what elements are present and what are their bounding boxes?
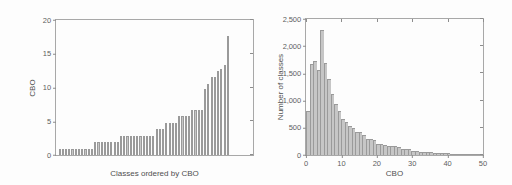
bar bbox=[101, 142, 103, 155]
right-y-tick-mirror bbox=[480, 45, 483, 46]
bar bbox=[165, 123, 167, 155]
bar bbox=[146, 136, 148, 155]
bar bbox=[188, 116, 190, 155]
bar bbox=[136, 136, 138, 155]
y-axis-title-left: CBO bbox=[28, 79, 37, 96]
bar bbox=[59, 149, 61, 155]
bar bbox=[175, 123, 177, 155]
bar bbox=[191, 110, 193, 155]
bar bbox=[224, 65, 226, 155]
bar bbox=[81, 149, 83, 155]
histogram-series-right bbox=[306, 19, 483, 155]
right-y-tick-label: 500 bbox=[289, 124, 306, 132]
left-y-tick-mirror bbox=[250, 53, 253, 54]
bar bbox=[110, 142, 112, 155]
left-y-tick-mirror bbox=[250, 154, 253, 155]
bar bbox=[227, 36, 229, 155]
bar bbox=[194, 110, 196, 155]
bar bbox=[201, 110, 203, 155]
bar bbox=[207, 84, 209, 155]
left-y-tick-label: 20 bbox=[43, 16, 56, 24]
bar bbox=[152, 136, 154, 155]
right-x-tick-label: 0 bbox=[304, 155, 308, 168]
right-x-tick-label: 10 bbox=[337, 155, 345, 168]
bar bbox=[120, 136, 122, 155]
chart-panel-right: CBO Number of classes 05001,0001,5002,00… bbox=[256, 0, 512, 185]
bar bbox=[62, 149, 64, 155]
bar bbox=[88, 149, 90, 155]
bar bbox=[107, 142, 109, 155]
bar bbox=[75, 149, 77, 155]
bar bbox=[97, 142, 99, 155]
bar bbox=[126, 136, 128, 155]
right-x-tick-mirror bbox=[341, 19, 342, 22]
right-y-tick-mirror bbox=[480, 127, 483, 128]
bar bbox=[220, 69, 222, 155]
left-y-tick-label: 10 bbox=[43, 84, 56, 92]
left-y-tick-label: 5 bbox=[47, 118, 56, 126]
right-x-tick-mirror bbox=[377, 19, 378, 22]
right-x-tick-mirror bbox=[412, 19, 413, 22]
plot-area-right: CBO Number of classes 05001,0001,5002,00… bbox=[305, 18, 484, 156]
bar bbox=[162, 129, 164, 155]
x-axis-title-right: CBO bbox=[386, 169, 403, 178]
left-y-tick-label: 0 bbox=[47, 151, 56, 159]
bar bbox=[123, 136, 125, 155]
bar bbox=[68, 149, 70, 155]
right-y-tick-label: 1,500 bbox=[283, 70, 306, 78]
bar bbox=[198, 110, 200, 155]
bar bbox=[91, 149, 93, 155]
bar bbox=[78, 149, 80, 155]
bar bbox=[185, 116, 187, 155]
bar bbox=[71, 149, 73, 155]
right-x-tick-label: 40 bbox=[443, 155, 451, 168]
right-x-tick-label: 30 bbox=[408, 155, 416, 168]
bar bbox=[217, 71, 219, 155]
x-axis-title-left: Classes ordered by CBO bbox=[110, 169, 198, 178]
bar bbox=[143, 136, 145, 155]
bar bbox=[181, 116, 183, 155]
bar bbox=[114, 142, 116, 155]
bar bbox=[94, 142, 96, 155]
chart-panel-left: Classes ordered by CBO CBO 05101520 bbox=[0, 0, 256, 185]
plot-area-left: Classes ordered by CBO CBO 05101520 bbox=[55, 19, 254, 156]
y-axis-title-right: Number of classes bbox=[276, 54, 285, 120]
bar bbox=[159, 129, 161, 155]
bar bbox=[139, 136, 141, 155]
bar bbox=[172, 123, 174, 155]
right-x-tick-label: 50 bbox=[479, 155, 487, 168]
right-x-tick-mirror bbox=[448, 19, 449, 22]
bar bbox=[156, 129, 158, 155]
right-y-tick-mirror bbox=[480, 72, 483, 73]
right-y-tick-label: 2,500 bbox=[283, 15, 306, 23]
bar bbox=[84, 149, 86, 155]
bar bbox=[104, 142, 106, 155]
bar-series-left bbox=[56, 20, 253, 155]
right-x-tick-label: 20 bbox=[373, 155, 381, 168]
bar bbox=[214, 77, 216, 155]
bar bbox=[130, 136, 132, 155]
right-y-tick-mirror bbox=[480, 100, 483, 101]
right-y-tick-label: 2,000 bbox=[283, 42, 306, 50]
left-y-tick-mirror bbox=[250, 120, 253, 121]
bar bbox=[211, 77, 213, 155]
bar bbox=[117, 142, 119, 155]
bar bbox=[178, 116, 180, 155]
bar bbox=[133, 136, 135, 155]
figure-canvas: Classes ordered by CBO CBO 05101520 CBO … bbox=[0, 0, 512, 185]
left-y-tick-label: 15 bbox=[43, 50, 56, 58]
bar bbox=[204, 89, 206, 155]
bar bbox=[149, 136, 151, 155]
left-y-tick-mirror bbox=[250, 19, 253, 20]
bar bbox=[169, 123, 171, 155]
left-y-tick-mirror bbox=[250, 87, 253, 88]
right-y-tick-label: 1,000 bbox=[283, 97, 306, 105]
right-x-tick-mirror bbox=[483, 19, 484, 22]
right-x-tick-mirror bbox=[306, 19, 307, 22]
bar bbox=[65, 149, 67, 155]
